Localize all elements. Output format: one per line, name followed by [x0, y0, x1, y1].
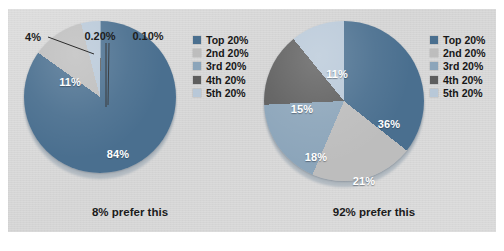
legend-label-5th-20: 5th 20%	[206, 87, 246, 99]
legend-item-5th-20[interactable]: 5th 20%	[193, 87, 249, 100]
slice-label-010-percent: 0.10%	[132, 30, 163, 42]
legend-item-4th-20[interactable]: 4th 20%	[193, 73, 249, 86]
pie-chart-figure: 4% 0.20% 0.10% 84% 11% Top 20% 2nd 20% 3…	[0, 0, 504, 251]
legend-swatch-5th-20	[430, 89, 438, 97]
pie-left	[24, 21, 176, 179]
legend-item-2nd-20[interactable]: 2nd 20%	[430, 46, 486, 59]
slice-label-84-percent: 84%	[107, 148, 129, 160]
figure-panel: 4% 0.20% 0.10% 84% 11% Top 20% 2nd 20% 3…	[8, 9, 496, 232]
caption-left: 8% prefer this	[8, 206, 252, 218]
legend-label-4th-20: 4th 20%	[206, 74, 246, 86]
pie-right-disc	[264, 21, 424, 181]
chart-left: 4% 0.20% 0.10% 84% 11% Top 20% 2nd 20% 3…	[8, 9, 252, 232]
legend-item-3rd-20[interactable]: 3rd 20%	[430, 60, 486, 73]
slice-label-4-percent: 4%	[25, 31, 41, 43]
legend-swatch-5th-20	[193, 89, 201, 97]
legend-left: Top 20% 2nd 20% 3rd 20% 4th 20% 5th 20%	[193, 33, 249, 100]
legend-label-3rd-20: 3rd 20%	[206, 60, 246, 72]
legend-right: Top 20% 2nd 20% 3rd 20% 4th 20% 5th 20%	[430, 33, 486, 100]
slice-label-11-percent: 11%	[326, 68, 348, 80]
legend-swatch-3rd-20	[430, 62, 438, 70]
legend-label-top-20: Top 20%	[443, 34, 485, 46]
legend-label-4th-20: 4th 20%	[443, 74, 483, 86]
caption-right: 92% prefer this	[252, 206, 496, 218]
legend-item-top-20[interactable]: Top 20%	[430, 33, 486, 46]
slice-label-020-percent: 0.20%	[84, 30, 115, 42]
legend-swatch-2nd-20	[430, 49, 438, 57]
legend-swatch-3rd-20	[193, 62, 201, 70]
chart-right: 36% 21% 18% 15% 11% Top 20% 2nd 20% 3rd …	[252, 9, 496, 232]
slice-label-18-percent: 18%	[305, 151, 327, 163]
legend-swatch-4th-20	[193, 76, 201, 84]
legend-swatch-top-20	[430, 36, 438, 44]
slice-label-36-percent: 36%	[378, 118, 400, 130]
legend-swatch-top-20	[193, 36, 201, 44]
legend-swatch-2nd-20	[193, 49, 201, 57]
slice-label-11-percent: 11%	[59, 76, 81, 88]
legend-label-5th-20: 5th 20%	[443, 87, 483, 99]
legend-label-2nd-20: 2nd 20%	[443, 47, 486, 59]
pie-right	[264, 21, 424, 187]
legend-swatch-4th-20	[430, 76, 438, 84]
legend-label-top-20: Top 20%	[206, 34, 248, 46]
legend-item-2nd-20[interactable]: 2nd 20%	[193, 46, 249, 59]
legend-item-top-20[interactable]: Top 20%	[193, 33, 249, 46]
slice-label-15-percent: 15%	[291, 103, 313, 115]
legend-item-5th-20[interactable]: 5th 20%	[430, 87, 486, 100]
pie-left-disc	[24, 21, 176, 173]
legend-item-4th-20[interactable]: 4th 20%	[430, 73, 486, 86]
legend-item-3rd-20[interactable]: 3rd 20%	[193, 60, 249, 73]
legend-label-2nd-20: 2nd 20%	[206, 47, 249, 59]
slice-label-21-percent: 21%	[353, 175, 375, 187]
legend-label-3rd-20: 3rd 20%	[443, 60, 483, 72]
